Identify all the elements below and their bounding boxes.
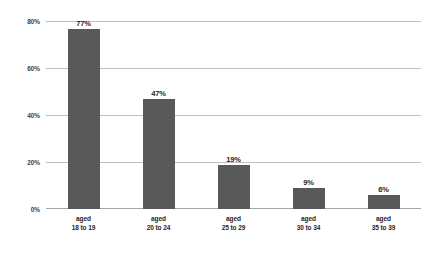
- bar-value-label: 19%: [226, 155, 240, 164]
- x-tick-label: aged 20 to 24: [121, 214, 196, 233]
- y-tick-label: 40%: [4, 112, 40, 119]
- x-tick-label-line2: 18 to 19: [46, 223, 121, 232]
- y-tick-label: 60%: [4, 65, 40, 72]
- x-tick-label-line2: 25 to 29: [196, 223, 271, 232]
- bar[interactable]: [293, 188, 325, 209]
- bar-group: 19%: [196, 21, 271, 209]
- x-tick-label-line1: aged: [46, 214, 121, 223]
- bar[interactable]: [68, 29, 100, 209]
- bar-value-label: 47%: [151, 89, 165, 98]
- bar-group: 47%: [121, 21, 196, 209]
- x-tick-label: aged 30 to 34: [271, 214, 346, 233]
- y-tick-label: 80%: [4, 18, 40, 25]
- x-tick-label-line1: aged: [346, 214, 421, 223]
- y-tick-label: 20%: [4, 159, 40, 166]
- bar-series: 77% 47% 19% 9% 6%: [46, 21, 421, 209]
- y-tick-label: 0%: [4, 206, 40, 213]
- x-tick-label-line1: aged: [121, 214, 196, 223]
- bar-group: 9%: [271, 21, 346, 209]
- bar-value-label: 77%: [76, 19, 90, 28]
- bar[interactable]: [143, 99, 175, 209]
- bar-group: 6%: [346, 21, 421, 209]
- bar-value-label: 9%: [303, 178, 313, 187]
- bar[interactable]: [368, 195, 400, 209]
- x-tick-label-line2: 30 to 34: [271, 223, 346, 232]
- x-tick-label-line2: 35 to 39: [346, 223, 421, 232]
- x-axis: aged 18 to 19 aged 20 to 24 aged 25 to 2…: [46, 214, 421, 248]
- bar-chart: 80% 60% 40% 20% 0% 77% 47% 19% 9%: [0, 0, 441, 254]
- x-tick-label-line1: aged: [271, 214, 346, 223]
- x-tick-label: aged 25 to 29: [196, 214, 271, 233]
- x-tick-label: aged 18 to 19: [46, 214, 121, 233]
- x-tick-label: aged 35 to 39: [346, 214, 421, 233]
- x-tick-label-line1: aged: [196, 214, 271, 223]
- bar[interactable]: [218, 165, 250, 209]
- bar-value-label: 6%: [378, 185, 388, 194]
- bar-group: 77%: [46, 21, 121, 209]
- x-tick-label-line2: 20 to 24: [121, 223, 196, 232]
